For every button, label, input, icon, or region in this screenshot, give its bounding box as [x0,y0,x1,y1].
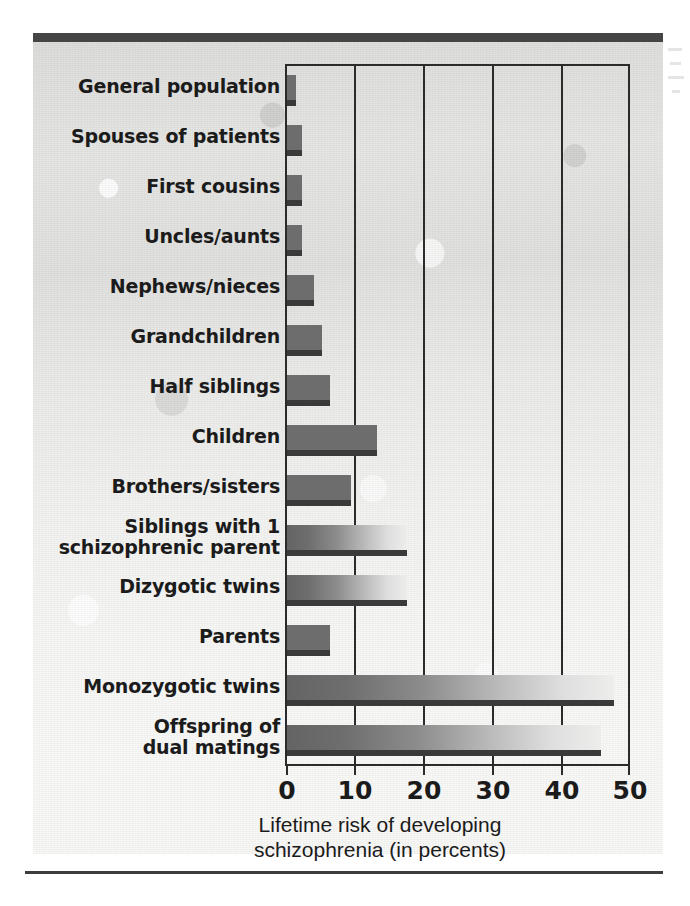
bar-offspring-of-dual-matings [287,725,601,750]
category-label-line1: Dizygotic twins [119,575,280,597]
tick-mark-10 [354,766,356,775]
bar-shadow [287,450,377,456]
bar-shadow [287,500,351,506]
category-label: Grandchildren [28,326,280,347]
gridline-40 [561,66,563,764]
category-label-line1: Brothers/sisters [111,475,280,497]
bar-dizygotic-twins [287,575,407,600]
category-label: Children [28,426,280,447]
tick-label-20: 20 [394,776,454,805]
x-axis-title-line2: schizophrenia (in percents) [150,837,610,862]
category-label-line1: Parents [199,625,280,647]
category-label-line1: Spouses of patients [71,125,280,147]
category-label-line1: General population [78,75,280,97]
bar-spouses-of-patients [287,125,302,150]
category-label-line1: First cousins [146,175,280,197]
bar-brothers-sisters [287,475,351,500]
gridline-30 [492,66,494,764]
bar-general-population [287,75,296,100]
bar-shadow [287,200,302,206]
category-label-line2: schizophrenic parent [28,537,280,558]
bar-shadow [287,600,407,606]
category-label-line1: Monozygotic twins [83,675,280,697]
bar-shadow [287,100,296,106]
tick-mark-0 [286,766,288,775]
category-label: Dizygotic twins [28,576,280,597]
bar-half-siblings [287,375,330,400]
category-label: Brothers/sisters [28,476,280,497]
category-label: Siblings with 1 schizophrenic parent [28,516,280,558]
tick-label-0: 0 [257,776,317,805]
tick-label-30: 30 [463,776,523,805]
category-label-line1: Grandchildren [130,325,280,347]
category-label-line2: dual matings [28,737,280,758]
category-label-line1: Half siblings [150,375,280,397]
bar-shadow [287,150,302,156]
bar-first-cousins [287,175,302,200]
bar-shadow [287,400,330,406]
figure-bottom-rule [25,871,663,874]
bar-shadow [287,250,302,256]
bar-children [287,425,377,450]
category-label-line1: Offspring of [154,715,280,737]
bar-shadow [287,550,407,556]
bar-parents [287,625,330,650]
bar-shadow [287,350,322,356]
bar-monozygotic-twins [287,675,614,700]
category-label: Uncles/aunts [28,226,280,247]
category-label-line1: Uncles/aunts [144,225,280,247]
bar-shadow [287,750,601,756]
bar-chart: General population Spouses of patients F… [0,0,690,906]
tick-label-40: 40 [532,776,592,805]
category-label: First cousins [28,176,280,197]
bar-shadow [287,300,314,306]
category-label-column: General population Spouses of patients F… [28,64,280,766]
category-label: Offspring of dual matings [28,716,280,758]
tick-mark-50 [628,766,630,775]
category-label: General population [28,76,280,97]
gridline-10 [354,66,356,764]
tick-mark-20 [423,766,425,775]
gridline-20 [423,66,425,764]
tick-label-10: 10 [325,776,385,805]
x-axis-title-line1: Lifetime risk of developing [259,813,502,836]
tick-mark-30 [492,766,494,775]
bar-nephews-nieces [287,275,314,300]
tick-mark-40 [561,766,563,775]
category-label: Parents [28,626,280,647]
category-label: Nephews/nieces [28,276,280,297]
category-label-line1: Siblings with 1 [125,515,280,537]
bar-siblings-with-1-schizophrenic-parent [287,525,407,550]
bar-grandchildren [287,325,322,350]
tick-label-50: 50 [600,776,660,805]
category-label: Half siblings [28,376,280,397]
bar-shadow [287,650,330,656]
category-label-line1: Children [192,425,280,447]
category-label: Monozygotic twins [28,676,280,697]
category-label-line1: Nephews/nieces [110,275,280,297]
bar-uncles-aunts [287,225,302,250]
plot-area [285,64,630,766]
x-axis-title: Lifetime risk of developing schizophreni… [150,812,610,862]
bar-shadow [287,700,614,706]
category-label: Spouses of patients [28,126,280,147]
figure-container: General population Spouses of patients F… [0,0,690,906]
